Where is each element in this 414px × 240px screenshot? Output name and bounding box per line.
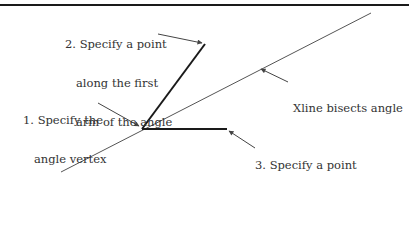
label-xline: Xline bisects angle [293, 76, 403, 128]
label-step2-line1: 2. Specify a point [65, 38, 172, 51]
leader-arrow-xline [261, 69, 288, 82]
label-step3: 3. Specify a point along the second arm … [255, 133, 365, 185]
label-step1-line1: 1. Specify the [23, 114, 106, 127]
label-step3-line1: 3. Specify a point [255, 159, 365, 172]
label-step1: 1. Specify the angle vertex [23, 88, 106, 179]
label-xline-text: Xline bisects angle [293, 102, 403, 115]
leader-arrow-step3 [229, 131, 255, 148]
label-step1-line2: angle vertex [23, 153, 106, 166]
